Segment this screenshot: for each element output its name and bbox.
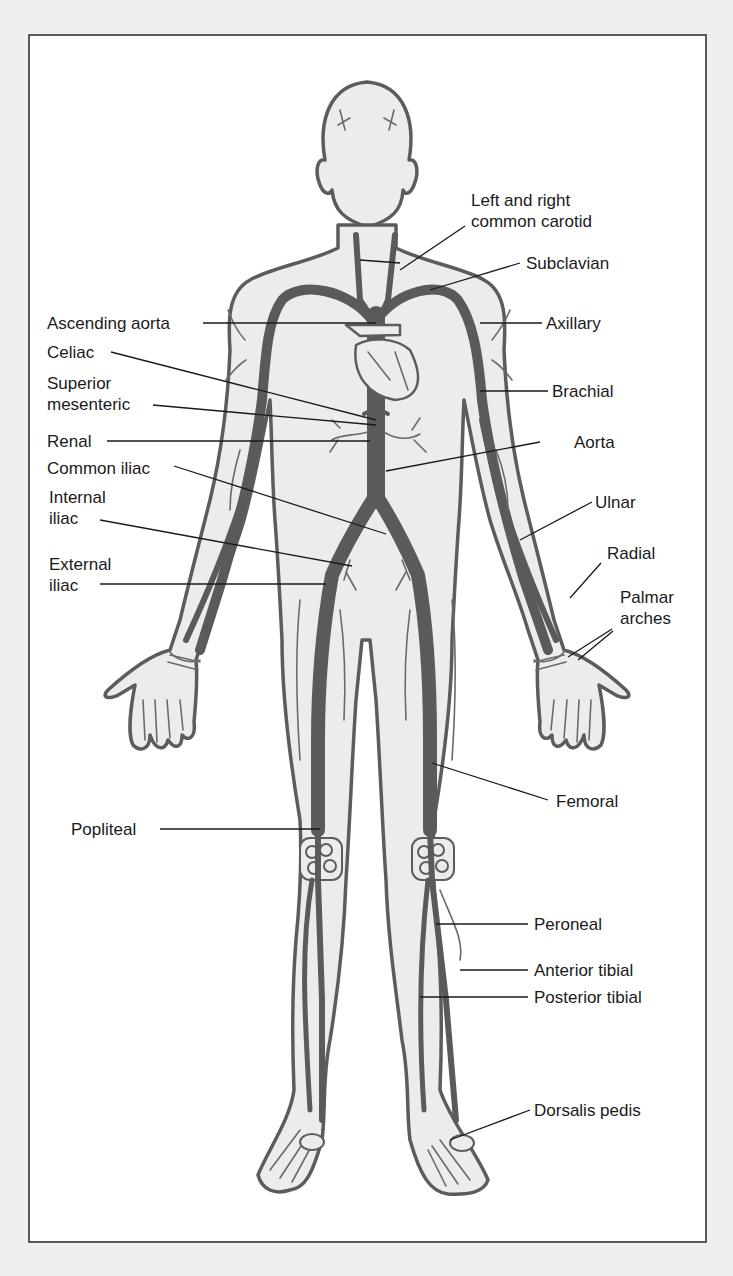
label-dorsalis-pedis: Dorsalis pedis xyxy=(534,1100,641,1121)
label-subclavian: Subclavian xyxy=(526,253,609,274)
label-peroneal: Peroneal xyxy=(534,914,602,935)
anatomy-details xyxy=(143,652,591,1186)
label-ascending-aorta: Ascending aorta xyxy=(47,313,170,334)
label-radial: Radial xyxy=(607,543,655,564)
label-femoral: Femoral xyxy=(556,791,618,812)
label-anterior-tibial: Anterior tibial xyxy=(534,960,633,981)
label-common-carotid: Left and right common carotid xyxy=(471,190,592,232)
label-axillary: Axillary xyxy=(546,313,601,334)
label-aorta: Aorta xyxy=(574,432,615,453)
label-external-iliac: External iliac xyxy=(49,554,111,596)
label-renal: Renal xyxy=(47,431,91,452)
label-ulnar: Ulnar xyxy=(595,492,636,513)
label-celiac: Celiac xyxy=(47,342,94,363)
arterial-system-illustration xyxy=(0,0,733,1276)
label-palmar-arches: Palmar arches xyxy=(620,587,674,629)
label-internal-iliac: Internal iliac xyxy=(49,487,106,529)
label-superior-mesenteric: Superior mesenteric xyxy=(47,373,130,415)
label-common-iliac: Common iliac xyxy=(47,458,150,479)
label-popliteal: Popliteal xyxy=(71,819,136,840)
label-brachial: Brachial xyxy=(552,381,613,402)
label-posterior-tibial: Posterior tibial xyxy=(534,987,642,1008)
